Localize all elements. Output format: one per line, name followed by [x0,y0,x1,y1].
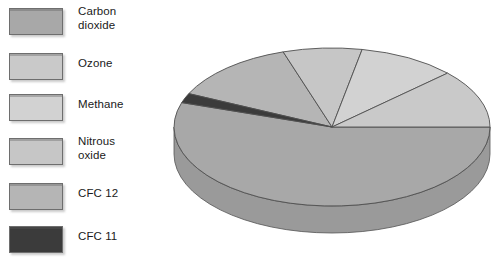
legend-item[interactable]: Methane [0,94,165,128]
legend-item[interactable]: Carbon dioxide [0,8,165,42]
legend-label-cfc-11: CFC 11 [78,230,164,244]
legend-label-ozone: Ozone [78,57,164,71]
legend-label-methane: Methane [78,98,164,112]
legend-swatch-cfc-12 [9,183,63,210]
legend-label-carbon-dioxide: Carbon dioxide [78,5,164,32]
legend-item[interactable]: Ozone [0,53,165,87]
legend-item[interactable]: CFC 12 [0,183,165,217]
pie-chart-graphic [160,0,494,260]
pie-chart-figure: Carbon dioxide Ozone Methane Nitrous oxi… [0,0,494,260]
legend-swatch-ozone [9,53,63,80]
legend-swatch-nitrous-oxide [9,138,63,165]
pie-svg [160,0,494,260]
legend-swatch-cfc-11 [9,226,63,253]
legend-item[interactable]: CFC 11 [0,226,165,260]
legend-item[interactable]: Nitrous oxide [0,138,165,172]
chart-legend: Carbon dioxide Ozone Methane Nitrous oxi… [0,0,165,260]
legend-swatch-methane [9,94,63,121]
legend-label-nitrous-oxide: Nitrous oxide [78,135,164,162]
pie-top-faces [174,48,490,206]
legend-label-cfc-12: CFC 12 [78,187,164,201]
legend-swatch-carbon-dioxide [9,8,63,35]
